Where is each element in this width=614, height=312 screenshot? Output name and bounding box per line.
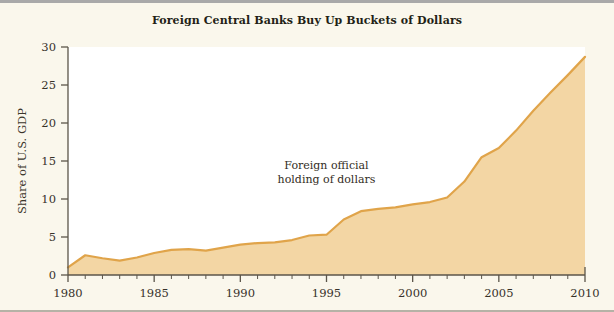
- x-tick-label: 2010: [570, 286, 599, 300]
- chart-plot-area: 051015202530 198019851990199520002005201…: [0, 3, 614, 312]
- y-tick-label: 5: [49, 230, 56, 244]
- x-tick-label: 1985: [140, 286, 169, 300]
- x-tick-label: 2005: [484, 286, 513, 300]
- y-tick-label: 10: [41, 192, 56, 206]
- y-tick-label: 30: [41, 40, 56, 54]
- series-annotation-line-1: Foreign official: [284, 159, 369, 172]
- y-axis-tick-labels: 051015202530: [41, 40, 56, 282]
- x-tick-label: 1995: [312, 286, 341, 300]
- y-axis-title: Share of U.S. GDP: [15, 108, 29, 214]
- series-annotation-line-2: holding of dollars: [278, 173, 376, 186]
- x-tick-label: 1980: [53, 286, 82, 300]
- x-axis-tick-labels: 1980198519901995200020052010: [53, 286, 599, 300]
- chart-figure: Foreign Central Banks Buy Up Buckets of …: [0, 0, 614, 312]
- x-tick-label: 2000: [398, 286, 427, 300]
- y-tick-label: 25: [41, 78, 56, 92]
- y-axis-ticks: [61, 47, 68, 275]
- x-axis-ticks: [68, 275, 585, 282]
- y-tick-label: 0: [49, 268, 56, 282]
- y-tick-label: 20: [41, 116, 56, 130]
- y-tick-label: 15: [41, 154, 56, 168]
- x-tick-label: 1990: [226, 286, 255, 300]
